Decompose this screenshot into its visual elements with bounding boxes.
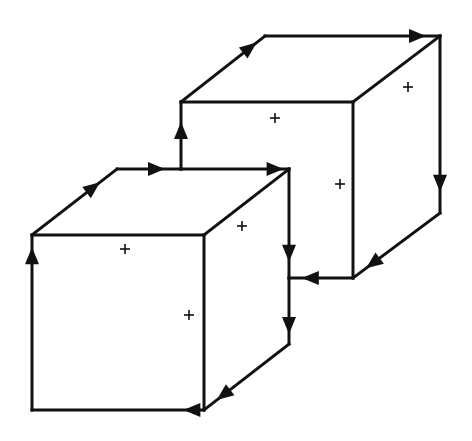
edge-front-cube-right-diag — [204, 169, 289, 235]
diagram-canvas — [0, 0, 472, 441]
plus-back-cube-front-face-icon — [270, 113, 280, 123]
edge-back-cube-right-diag — [353, 36, 440, 102]
arrowhead-icon — [25, 247, 39, 264]
plus-back-cube-side-face-icon — [335, 179, 345, 189]
arrowhead-icon — [282, 317, 296, 334]
arrowhead-icon — [366, 252, 384, 268]
arrowhead-icon — [409, 29, 426, 43]
arrowhead-icon — [174, 122, 188, 139]
arrowhead-icon — [148, 162, 165, 176]
arrowheads-layer — [25, 29, 447, 417]
arrowhead-icon — [183, 403, 200, 417]
plus-markers-layer — [120, 82, 413, 320]
edges-layer — [32, 36, 440, 410]
arrowhead-icon — [282, 245, 296, 262]
plus-front-cube-top-face-icon — [237, 221, 247, 231]
plus-back-cube-right-face-icon — [403, 82, 413, 92]
plus-front-cube-front-face-icon — [120, 244, 130, 254]
two-cubes-diagram — [0, 0, 472, 441]
arrowhead-icon — [433, 175, 447, 192]
plus-front-cube-right-face-icon — [184, 310, 194, 320]
edge-front-cube-left-diag — [32, 169, 117, 235]
arrowhead-icon — [302, 271, 319, 285]
